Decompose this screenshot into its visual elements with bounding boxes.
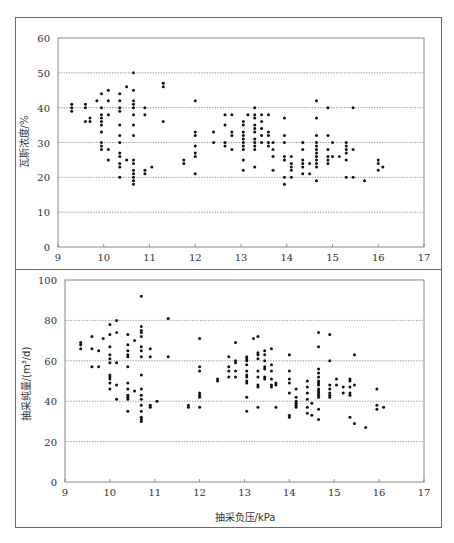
data-point	[107, 113, 110, 116]
data-point	[118, 124, 121, 127]
data-point	[115, 398, 118, 401]
data-point	[140, 420, 143, 423]
y-tick-label: 100	[38, 275, 57, 286]
data-point	[125, 158, 128, 161]
data-point	[326, 155, 329, 158]
data-point	[352, 106, 355, 109]
data-point	[267, 141, 270, 144]
data-point	[253, 165, 256, 168]
data-point	[310, 402, 313, 405]
x-tick-label: 15	[326, 252, 339, 263]
data-point	[140, 335, 143, 338]
data-point	[260, 127, 263, 130]
data-point	[194, 172, 197, 175]
y-tick-label: 10	[37, 207, 50, 218]
data-point	[140, 388, 143, 391]
data-point	[162, 120, 165, 123]
data-point	[253, 106, 256, 109]
data-point	[95, 99, 98, 102]
x-tick-label: 12	[193, 487, 206, 498]
data-point	[315, 99, 318, 102]
data-point	[348, 380, 351, 383]
data-point	[126, 410, 129, 413]
top-chart-gas-concentration: 0102030405060 91011121314151617 瓦斯浓度/%	[18, 33, 430, 263]
data-point	[234, 341, 237, 344]
data-point	[84, 106, 87, 109]
data-point	[118, 151, 121, 154]
data-point	[84, 103, 87, 106]
data-point	[288, 382, 291, 385]
data-point	[198, 365, 201, 368]
data-point	[245, 396, 248, 399]
data-point	[301, 148, 304, 151]
data-point	[198, 369, 201, 372]
data-point	[126, 382, 129, 385]
data-point	[301, 172, 304, 175]
y-tick-label: 20	[44, 437, 57, 448]
data-point	[315, 148, 318, 151]
y-tick-label: 40	[37, 103, 50, 114]
x-tick-label: 13	[235, 252, 248, 263]
data-point	[317, 345, 320, 348]
data-point	[118, 155, 121, 158]
data-point	[194, 99, 197, 102]
data-point	[245, 369, 248, 372]
data-point	[342, 392, 345, 395]
data-point	[267, 144, 270, 147]
data-point	[132, 71, 135, 74]
data-point	[107, 89, 110, 92]
data-point	[132, 158, 135, 161]
bottom-y-tick-labels: 020406080100	[38, 275, 57, 488]
data-point	[242, 124, 245, 127]
data-point	[342, 386, 345, 389]
data-point	[132, 176, 135, 179]
data-point	[108, 323, 111, 326]
data-point	[353, 422, 356, 425]
y-tick-label: 0	[44, 242, 50, 253]
data-point	[301, 158, 304, 161]
data-point	[315, 179, 318, 182]
data-point	[126, 343, 129, 346]
data-point	[167, 317, 170, 320]
data-point	[234, 361, 237, 364]
data-point	[283, 134, 286, 137]
data-point	[118, 165, 121, 168]
data-point	[132, 89, 135, 92]
data-point	[242, 148, 245, 151]
data-point	[245, 382, 248, 385]
data-point	[234, 375, 237, 378]
x-tick-label: 13	[238, 487, 251, 498]
data-point	[288, 377, 291, 380]
x-tick-label: 15	[328, 487, 341, 498]
data-point	[328, 333, 331, 336]
data-point	[102, 337, 105, 340]
data-point	[283, 158, 286, 161]
data-point	[70, 110, 73, 113]
data-point	[353, 384, 356, 387]
data-point	[256, 357, 259, 360]
data-point	[331, 141, 334, 144]
data-point	[182, 158, 185, 161]
data-point	[253, 148, 256, 151]
data-point	[230, 148, 233, 151]
x-tick-label: 9	[55, 252, 61, 263]
data-point	[115, 384, 118, 387]
data-point	[227, 375, 230, 378]
data-point	[234, 369, 237, 372]
data-point	[126, 388, 129, 391]
data-point	[317, 384, 320, 387]
data-point	[306, 398, 309, 401]
data-point	[315, 162, 318, 165]
data-point	[140, 398, 143, 401]
data-point	[315, 144, 318, 147]
data-point	[317, 408, 320, 411]
data-point	[272, 169, 275, 172]
data-point	[187, 406, 190, 409]
y-tick-label: 20	[37, 172, 50, 183]
data-point	[317, 367, 320, 370]
data-point	[348, 386, 351, 389]
data-point	[245, 363, 248, 366]
data-point	[100, 120, 103, 123]
data-point	[140, 355, 143, 358]
data-point	[155, 400, 158, 403]
